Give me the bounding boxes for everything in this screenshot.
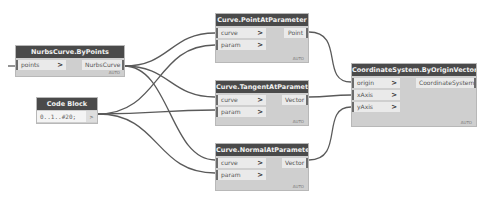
node-title: Curve.TangentAtParameter	[216, 81, 308, 93]
chevron-right-icon: >	[57, 60, 63, 70]
input-port-curve[interactable]: curve >	[216, 158, 266, 168]
wire-point-to-origin	[309, 32, 351, 82]
lacing-label: AUTO	[461, 120, 472, 125]
input-port-curve[interactable]: curve >	[216, 28, 266, 38]
node-curve-normalatparameter[interactable]: Curve.NormalAtParameter curve > Vector p…	[215, 143, 309, 191]
node-title: CoordinateSystem.ByOriginVectors	[352, 64, 476, 76]
chevron-right-icon: >	[257, 170, 263, 180]
node-title: Curve.PointAtParameter	[216, 14, 308, 26]
wire-tangent-to-xaxis	[309, 95, 351, 97]
lacing-label: AUTO	[293, 56, 304, 61]
port-label: curve	[221, 96, 238, 103]
chevron-right-icon: >	[391, 90, 397, 100]
chevron-right-icon: >	[257, 107, 263, 117]
chevron-right-icon: >	[257, 40, 263, 50]
code-text: 0..1..#20;	[40, 113, 76, 120]
chevron-right-icon: >	[257, 95, 263, 105]
chevron-right-icon: >	[391, 102, 397, 112]
node-code-block[interactable]: Code Block 0..1..#20; >	[36, 97, 98, 124]
input-port-param[interactable]: param >	[216, 107, 266, 117]
port-label: curve	[221, 29, 238, 36]
input-port-origin[interactable]: origin >	[352, 78, 400, 88]
port-label: xAxis	[357, 91, 373, 98]
port-label: param	[221, 108, 240, 115]
node-curve-pointatparameter[interactable]: Curve.PointAtParameter curve > Point par…	[215, 13, 309, 63]
port-label: param	[221, 41, 240, 48]
node-nurbscurve-bypoints[interactable]: NurbsCurve.ByPoints points > NurbsCurve …	[15, 45, 125, 77]
output-port-point[interactable]: Point	[284, 28, 308, 38]
port-label: origin	[357, 79, 374, 86]
input-port-xaxis[interactable]: xAxis >	[352, 90, 400, 100]
input-port-param[interactable]: param >	[216, 40, 266, 50]
port-label: points	[21, 61, 39, 68]
code-editor[interactable]: 0..1..#20; >	[37, 111, 97, 122]
node-title: NurbsCurve.ByPoints	[16, 46, 124, 58]
input-port-yaxis[interactable]: yAxis >	[352, 102, 400, 112]
lacing-label: AUTO	[293, 184, 304, 189]
node-coordinatesystem-byoriginvectors[interactable]: CoordinateSystem.ByOriginVectors origin …	[351, 63, 477, 127]
node-title: Curve.NormalAtParameter	[216, 144, 308, 156]
output-port-code[interactable]: >	[86, 111, 97, 122]
input-port-curve[interactable]: curve >	[216, 95, 266, 105]
node-title: Code Block	[37, 98, 97, 110]
wire-nurbs-to-tangent-curve	[124, 66, 215, 97]
input-port-param[interactable]: param >	[216, 170, 266, 180]
output-port-vector[interactable]: Vector	[282, 158, 308, 168]
port-label: param	[221, 171, 240, 178]
output-port-coordinatesystem[interactable]: CoordinateSystem	[416, 78, 476, 88]
input-port-points[interactable]: points >	[16, 60, 66, 70]
wire-nurbs-to-point-curve	[124, 33, 215, 66]
port-label: curve	[221, 159, 238, 166]
node-curve-tangentatparameter[interactable]: Curve.TangentAtParameter curve > Vector …	[215, 80, 309, 126]
lacing-label: AUTO	[109, 70, 120, 75]
output-port-nurbscurve[interactable]: NurbsCurve	[82, 60, 124, 70]
chevron-right-icon: >	[257, 158, 263, 168]
chevron-right-icon: >	[391, 78, 397, 88]
port-label: yAxis	[357, 103, 373, 110]
chevron-right-icon: >	[257, 28, 263, 38]
wire-normal-to-yaxis	[309, 107, 351, 160]
output-port-vector[interactable]: Vector	[282, 95, 308, 105]
wire-code-to-normal-param	[98, 114, 215, 173]
lacing-label: AUTO	[293, 119, 304, 124]
